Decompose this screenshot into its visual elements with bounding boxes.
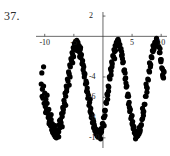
data-point (143, 81, 148, 86)
scatter-plot (0, 0, 170, 156)
data-point (123, 80, 128, 85)
data-point (77, 54, 82, 59)
data-point (105, 97, 110, 102)
y-tick-label: 2 (89, 12, 93, 20)
data-point (44, 101, 49, 106)
data-point (64, 89, 69, 94)
data-point (43, 110, 48, 115)
data-point (149, 55, 154, 60)
data-point (147, 60, 152, 65)
data-point (84, 80, 89, 85)
data-point (44, 93, 49, 98)
data-point (41, 83, 46, 88)
data-point (109, 72, 114, 77)
data-point (123, 75, 128, 80)
x-tick-label: 10 (157, 39, 165, 47)
data-point (116, 43, 121, 48)
data-point (57, 118, 62, 123)
data-point (129, 113, 134, 118)
data-point (144, 90, 149, 95)
data-point (63, 103, 68, 108)
data-point (133, 136, 138, 141)
data-point (130, 123, 135, 128)
data-point (103, 108, 108, 113)
data-point (126, 94, 131, 99)
data-point (127, 100, 132, 105)
x-tick-label: 5 (130, 39, 134, 47)
x-tick-label: -5 (71, 39, 78, 47)
data-point (67, 74, 72, 79)
y-tick-label: -6 (89, 93, 96, 101)
data-point (81, 70, 86, 75)
data-point (115, 37, 120, 42)
data-point (127, 105, 132, 110)
data-point (53, 123, 58, 128)
data-point (113, 48, 118, 53)
data-point (136, 125, 141, 130)
data-point (60, 110, 65, 115)
data-point (70, 60, 75, 65)
data-point (60, 124, 65, 129)
data-point (102, 123, 107, 128)
data-point (40, 94, 45, 99)
data-point (47, 121, 52, 126)
data-point (147, 69, 152, 74)
data-point (88, 106, 93, 111)
data-point (140, 106, 145, 111)
data-point (106, 89, 111, 94)
data-point (158, 59, 163, 64)
data-point (161, 68, 166, 73)
data-point (119, 49, 124, 54)
figure-panel: 37. -10-5510 2-4-6-8-10 (0, 0, 170, 156)
data-point (120, 56, 125, 61)
data-point (56, 134, 61, 139)
data-point (39, 70, 44, 75)
data-point (81, 62, 86, 67)
data-point (102, 113, 107, 118)
data-point (95, 127, 100, 132)
data-point (67, 82, 72, 87)
data-point (141, 113, 146, 118)
data-point (49, 112, 54, 117)
data-point (109, 64, 114, 69)
data-point (63, 94, 68, 99)
y-tick-label: -10 (89, 134, 100, 142)
data-point (112, 56, 117, 61)
data-point (122, 70, 127, 75)
data-point (71, 54, 76, 59)
x-tick-label: -10 (39, 39, 50, 47)
y-tick-label: -4 (89, 73, 96, 81)
y-tick-label: -8 (89, 114, 96, 122)
data-point (78, 45, 83, 50)
data-point (53, 128, 58, 133)
data-point (150, 43, 155, 48)
data-point (41, 64, 46, 69)
